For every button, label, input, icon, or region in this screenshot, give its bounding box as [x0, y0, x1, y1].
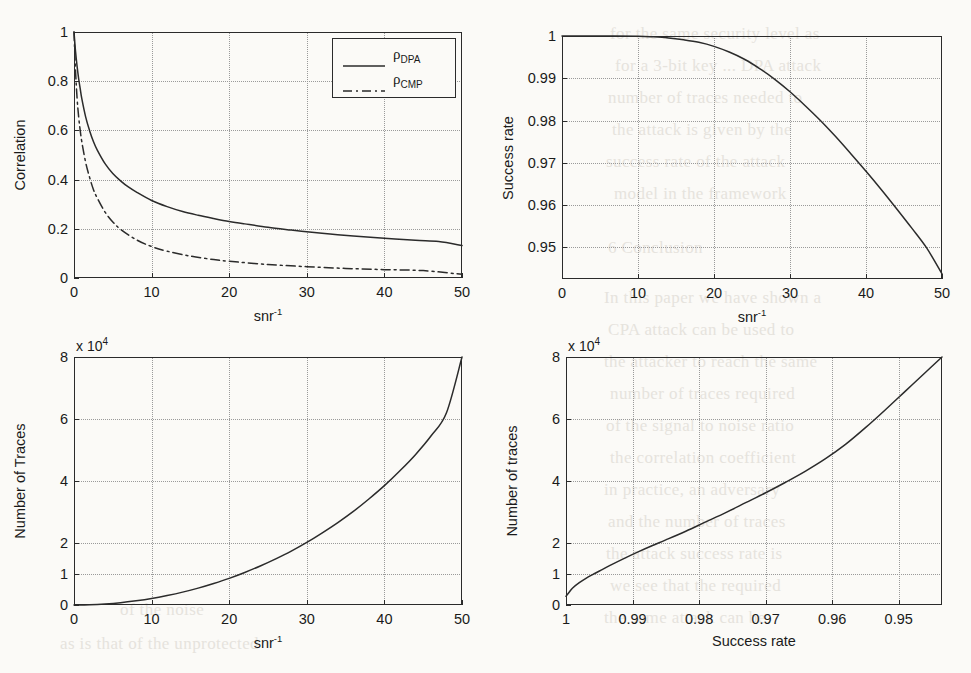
y-axis-tick-label: 2 — [512, 535, 560, 551]
axis-exponent-multiplier: x 104 — [568, 336, 600, 354]
y-axis-tick — [566, 574, 571, 575]
y-axis-tick-label: 1 — [512, 566, 560, 582]
x-axis-tick-label: 1 — [562, 611, 570, 627]
x-axis-tick-label: 0.99 — [618, 611, 646, 627]
y-axis-tick-label: 8 — [512, 349, 560, 365]
x-axis-tick-label: 0.98 — [685, 611, 713, 627]
y-axis-tick — [566, 605, 571, 606]
y-axis-tick — [566, 357, 571, 358]
plot-axes-box — [566, 357, 942, 605]
x-axis-tick — [766, 600, 767, 605]
x-axis-tick — [899, 600, 900, 605]
chart-panel-traces-vs-success-rate: 10.990.980.970.960.95012468Success rateN… — [0, 0, 971, 673]
x-axis-tick — [633, 600, 634, 605]
x-axis-tick-label: 0.96 — [818, 611, 846, 627]
figure-page: for the same security level asfor a 3-bi… — [0, 0, 971, 673]
y-axis-tick — [566, 481, 571, 482]
y-axis-tick — [566, 419, 571, 420]
x-axis-label: Success rate — [712, 633, 796, 649]
x-axis-tick — [832, 600, 833, 605]
x-axis-tick-label: 0.97 — [752, 611, 780, 627]
y-axis-label: Number of traces — [504, 425, 520, 536]
x-axis-tick — [699, 600, 700, 605]
x-axis-tick-label: 0.95 — [885, 611, 913, 627]
y-axis-tick-label: 0 — [512, 597, 560, 613]
y-axis-tick — [566, 543, 571, 544]
